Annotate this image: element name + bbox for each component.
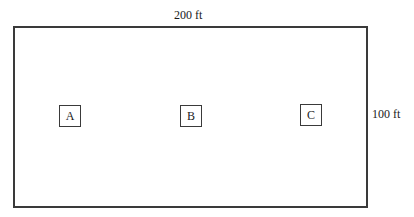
station-label: C (307, 109, 315, 121)
station-box-c: C (300, 104, 322, 126)
station-label: B (187, 110, 195, 122)
lot-diagram: 200 ft 100 ft A B C (0, 0, 414, 217)
station-label: A (66, 110, 75, 122)
width-dimension-label: 200 ft (174, 8, 202, 22)
station-box-b: B (180, 105, 202, 127)
station-box-a: A (59, 105, 81, 127)
height-dimension-label: 100 ft (372, 107, 400, 121)
